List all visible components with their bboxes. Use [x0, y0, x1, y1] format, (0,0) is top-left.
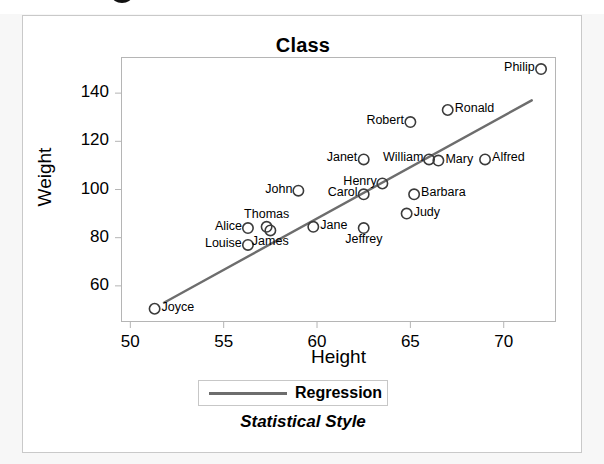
- y-tick-label: 120: [63, 130, 109, 150]
- chart-screenshot: Class 60801001201405055606570 JoyceAlice…: [0, 0, 604, 464]
- point-label: Philip: [504, 60, 535, 74]
- point-label: Mary: [445, 152, 473, 166]
- point-label: Thomas: [244, 207, 289, 221]
- point-label: John: [265, 182, 292, 196]
- y-tick-label: 60: [63, 275, 109, 295]
- point-label: Jeffrey: [345, 232, 382, 246]
- point-label: James: [252, 234, 289, 248]
- point-label: Janet: [327, 150, 358, 164]
- point-label: Joyce: [162, 300, 195, 314]
- chart-card: Class 60801001201405055606570 JoyceAlice…: [22, 15, 582, 453]
- point-label: Judy: [414, 205, 440, 219]
- y-tick-label: 140: [63, 82, 109, 102]
- point-label: Alice: [215, 219, 242, 233]
- point-label: Barbara: [421, 185, 465, 199]
- regression-line-swatch-icon: [209, 392, 287, 395]
- x-axis-title: Height: [121, 346, 556, 368]
- y-axis-title: Weight: [34, 117, 56, 237]
- point-label: Louise: [205, 236, 242, 250]
- y-tick-label: 80: [63, 227, 109, 247]
- chart-footnote: Statistical Style: [23, 412, 583, 432]
- point-label: Ronald: [455, 101, 495, 115]
- y-tick-label: 100: [63, 179, 109, 199]
- legend-item-regression: Regression: [295, 384, 382, 402]
- legend[interactable]: Regression: [198, 380, 388, 406]
- cropped-top-artifact: [0, 0, 604, 14]
- partial-glyph-artifact: [112, 0, 132, 3]
- point-label: Jane: [320, 218, 347, 232]
- point-label: Alfred: [492, 150, 525, 164]
- point-label: Henry: [343, 174, 376, 188]
- point-label: William: [383, 150, 423, 164]
- point-label: Robert: [366, 113, 404, 127]
